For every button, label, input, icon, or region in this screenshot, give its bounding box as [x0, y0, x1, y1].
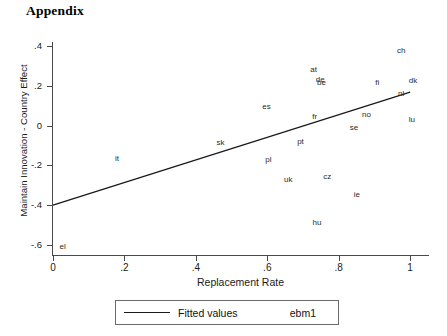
scatter-point-sk: sk	[217, 139, 225, 147]
scatter-point-at: at	[310, 66, 317, 74]
scatter-point-fi: fi	[375, 79, 379, 87]
x-tick	[339, 256, 340, 261]
x-tick	[196, 256, 197, 261]
scatter-point-el: el	[60, 243, 66, 251]
scatter-point-se: se	[350, 124, 358, 132]
x-axis-line	[52, 255, 429, 256]
y-tick	[47, 86, 52, 87]
y-tick	[47, 165, 52, 166]
x-tick-label: 1	[390, 263, 430, 273]
legend-fitted-values-label: Fitted values	[178, 307, 238, 319]
x-tick-label: .2	[104, 263, 144, 273]
scatter-point-be: be	[317, 79, 326, 87]
x-tick-label: 0	[33, 263, 73, 273]
fitted-values-line	[53, 42, 428, 255]
scatter-point-no: no	[362, 111, 371, 119]
chart-legend: Fitted values ebm1	[115, 300, 339, 325]
x-tick	[410, 256, 411, 261]
scatter-point-pt: pt	[297, 138, 304, 146]
legend-line-swatch	[116, 312, 178, 313]
x-tick-label: .8	[319, 263, 359, 273]
scatter-chart-figure: .4.20-.2-.4-.6 0.2.4.6.81 Maintain Innov…	[0, 0, 447, 336]
scatter-point-fr: fr	[312, 113, 317, 121]
scatter-point-pl: pl	[265, 156, 271, 164]
legend-line-icon	[124, 312, 170, 313]
scatter-point-it: it	[115, 155, 119, 163]
scatter-point-ie: ie	[354, 191, 360, 199]
y-axis-label: Maintain Innovation - Country Effect	[18, 26, 29, 256]
scatter-point-ch: ch	[397, 47, 405, 55]
scatter-point-nl: nl	[398, 90, 404, 98]
x-tick-label: .4	[176, 263, 216, 273]
y-tick	[47, 245, 52, 246]
scatter-point-lu: lu	[409, 116, 415, 124]
x-tick	[124, 256, 125, 261]
x-tick	[267, 256, 268, 261]
legend-series-label: ebm1	[290, 307, 316, 319]
y-tick	[47, 126, 52, 127]
scatter-point-dk: dk	[409, 77, 417, 85]
plot-area: chatdebefidknlesfrnoluseptskitplczukiehu…	[53, 42, 428, 255]
scatter-point-es: es	[262, 103, 270, 111]
x-tick	[53, 256, 54, 261]
scatter-point-uk: uk	[284, 176, 292, 184]
x-tick-label: .6	[247, 263, 287, 273]
scatter-point-cz: cz	[323, 173, 331, 181]
scatter-point-hu: hu	[312, 219, 321, 227]
x-axis-label: Replacement Rate	[53, 276, 428, 288]
y-tick	[47, 205, 52, 206]
y-tick	[47, 46, 52, 47]
